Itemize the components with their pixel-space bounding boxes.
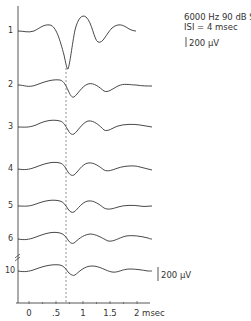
- trace-4: [18, 162, 152, 175]
- trace-label-3: 3: [8, 123, 13, 131]
- trace-1: [18, 16, 136, 69]
- isi-label: ISI = 4 msec: [184, 22, 251, 32]
- trace-5: [18, 200, 152, 212]
- stimulus-label: 6000 Hz 90 dB SPL: [184, 12, 251, 22]
- trace-label-1: 1: [8, 27, 13, 35]
- x-tick-0: 0: [26, 308, 31, 318]
- trace-label-10: 10: [5, 267, 15, 275]
- trace-label-4: 4: [8, 165, 13, 173]
- trace-label-2: 2: [8, 81, 13, 89]
- x-tick-1.5: 1.5: [103, 308, 117, 318]
- trace-6: [18, 232, 152, 243]
- trace-label-5: 5: [8, 202, 13, 210]
- trace-2: [18, 80, 152, 97]
- x-tick-0.5: .5: [52, 308, 60, 318]
- x-axis-ticks: [29, 301, 137, 304]
- trace-10: [18, 265, 152, 276]
- x-tick-1: 1: [80, 308, 85, 318]
- trace-3: [18, 120, 152, 134]
- scale-label-top: 200 μV: [189, 38, 219, 48]
- axis-break-icon: [15, 254, 20, 261]
- scale-label-bottom: 200 μV: [161, 270, 191, 280]
- waveform-figure: [0, 0, 251, 321]
- trace-label-6: 6: [8, 235, 13, 243]
- x-tick-2-msec: 2 msec: [134, 308, 165, 318]
- stimulus-info: 6000 Hz 90 dB SPL ISI = 4 msec: [184, 12, 251, 32]
